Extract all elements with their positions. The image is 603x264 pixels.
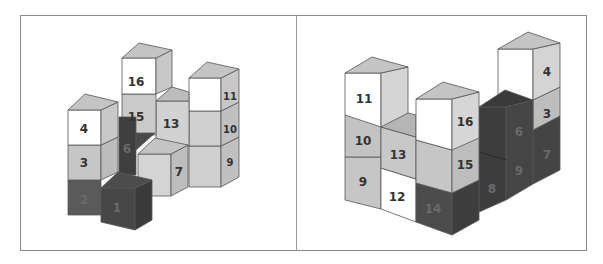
right-label-6: 6 [515,125,523,139]
right-label-12: 12 [389,190,406,204]
right-label-10: 10 [355,134,372,148]
right-label-9: 9 [359,175,367,189]
right-label-9b: 9 [515,164,523,178]
right-label-3: 3 [543,107,551,121]
right-label-16: 16 [457,115,474,129]
right-cube-figure: 11 10 9 13 12 14 15 16 8 9 6 4 3 7 [0,0,603,264]
right-label-4: 4 [543,65,551,79]
right-label-7: 7 [543,148,551,162]
right-label-13: 13 [390,148,407,162]
right-label-11: 11 [356,92,373,106]
right-label-14: 14 [425,202,442,216]
right-label-15: 15 [457,158,474,172]
right-label-8: 8 [488,182,496,196]
